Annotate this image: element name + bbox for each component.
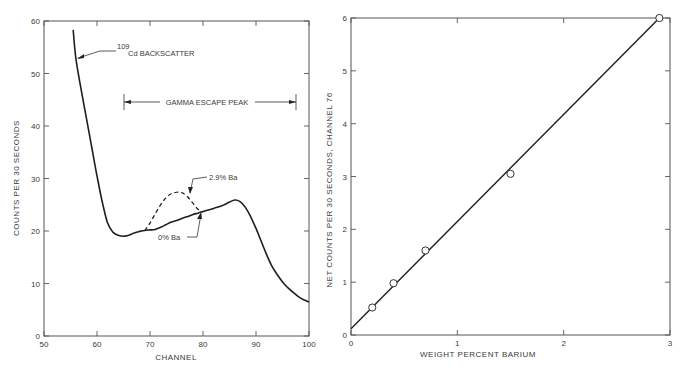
left-y-tick-label: 0 (36, 332, 41, 341)
left-y-tick-label: 10 (31, 280, 40, 289)
left-x-tick-label: 70 (146, 340, 155, 349)
left-y-tick-label: 60 (31, 17, 40, 26)
left-y-tick-label: 50 (31, 70, 40, 79)
data-point-circle-icon (656, 14, 663, 21)
data-point-circle-icon (369, 304, 376, 311)
annotation-2-9-percent-ba: 2.9% Ba (188, 173, 238, 194)
left-y-tick-label: 30 (31, 175, 40, 184)
right-y-axis-title: NET COUNTS PER 30 SECONDS, CHANNEL 76 (325, 92, 334, 287)
right-y-tick-label: 3 (343, 173, 348, 182)
right-y-tick-label: 4 (343, 120, 348, 129)
left-y-tick-label: 20 (31, 227, 40, 236)
curve-2-9-percent-ba (145, 192, 203, 230)
arrow-head-icon (188, 187, 193, 194)
data-point-circle-icon (390, 280, 397, 287)
curve-0-percent-ba (73, 30, 309, 302)
right-x-tick-label: 3 (668, 339, 673, 348)
right-y-tick-label: 1 (343, 278, 348, 287)
left-x-tick-label: 80 (199, 340, 208, 349)
cd-backscatter-label: Cd BACKSCATTER (128, 49, 195, 58)
left-x-tick-label: 50 (40, 340, 49, 349)
gamma-escape-peak-annotation: GAMMA ESCAPE PEAK (124, 94, 296, 110)
gamma-escape-peak-label: GAMMA ESCAPE PEAK (166, 98, 249, 107)
left-x-tick-label: 90 (252, 340, 261, 349)
data-point-circle-icon (422, 247, 429, 254)
right-y-tick-label: 5 (343, 67, 348, 76)
right-chart: 01230123456 WEIGHT PERCENT BARIUM NET CO… (325, 14, 673, 359)
cd-backscatter-annotation: 109 Cd BACKSCATTER (77, 42, 195, 59)
left-x-tick-label: 100 (302, 340, 316, 349)
label-2-9-percent-ba: 2.9% Ba (209, 173, 238, 182)
left-chart: 50607080901000102030405060 CHANNEL COUNT… (12, 17, 316, 362)
right-x-axis-title: WEIGHT PERCENT BARIUM (420, 350, 536, 359)
right-axis-tick-labels: 01230123456 (343, 14, 673, 348)
right-x-tick-label: 1 (455, 339, 460, 348)
left-x-axis-title: CHANNEL (155, 353, 197, 362)
arrow-head-icon (77, 54, 84, 59)
figure: 50607080901000102030405060 CHANNEL COUNT… (0, 0, 680, 370)
arrow-right-icon (289, 100, 296, 104)
left-plot-frame (44, 21, 309, 336)
left-axis-ticks (44, 21, 309, 336)
label-0-percent-ba: 0% Ba (158, 233, 181, 242)
right-y-tick-label: 6 (343, 14, 348, 23)
right-y-tick-label: 0 (343, 331, 348, 340)
right-y-tick-label: 2 (343, 225, 348, 234)
data-point-circle-icon (507, 170, 514, 177)
right-x-tick-label: 2 (561, 339, 566, 348)
arrow-left-icon (124, 100, 131, 104)
left-axis-tick-labels: 50607080901000102030405060 (31, 17, 316, 349)
left-y-axis-title: COUNTS PER 30 SECONDS (12, 120, 21, 236)
right-x-tick-label: 0 (349, 339, 354, 348)
left-x-tick-label: 60 (93, 340, 102, 349)
left-y-tick-label: 40 (31, 122, 40, 131)
annotation-0-percent-ba: 0% Ba (158, 212, 202, 242)
